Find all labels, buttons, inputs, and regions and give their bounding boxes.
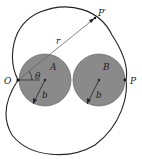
center-b-dot	[98, 79, 100, 81]
label-b: B	[102, 62, 110, 72]
point-p-prime	[94, 17, 96, 19]
center-a-dot	[44, 79, 46, 81]
label-b-b: b	[96, 90, 102, 100]
label-a: A	[49, 62, 57, 72]
label-p-prime: P′	[97, 8, 106, 18]
label-b-a: b	[42, 90, 48, 100]
point-p	[124, 79, 127, 82]
label-r: r	[56, 36, 61, 46]
label-theta: θ	[35, 71, 41, 81]
point-o	[16, 78, 19, 81]
label-p: P	[129, 76, 137, 86]
label-o: O	[4, 76, 12, 86]
cardioid-figure: O A B P P′ r θ b b	[0, 0, 142, 159]
